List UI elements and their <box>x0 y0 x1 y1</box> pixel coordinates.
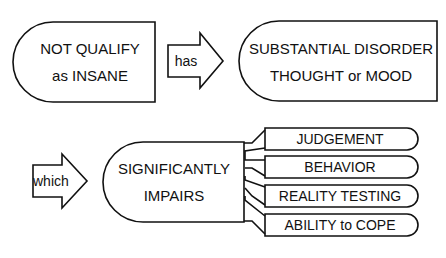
box-impairs-shape <box>103 142 244 222</box>
item-ability-to-cope-label: ABILITY to COPE <box>265 216 415 234</box>
arrow-has-label: has <box>168 52 204 70</box>
box-not-qualify-line1: NOT QUALIFY <box>28 40 152 58</box>
box-impairs-line2: IMPAIRS <box>106 187 242 205</box>
item-judgement-label: JUDGEMENT <box>265 130 415 148</box>
box-disorder-line2: THOUGHT or MOOD <box>244 67 438 85</box>
arrow-which-label: which <box>33 172 65 190</box>
item-behavior-label: BEHAVIOR <box>265 158 415 176</box>
box-not-qualify-line2: as INSANE <box>28 67 152 85</box>
box-not-qualify-shape <box>13 22 155 102</box>
item-reality-testing-label: REALITY TESTING <box>265 187 415 205</box>
box-disorder-shape <box>239 21 437 101</box>
connector-fan <box>244 130 265 234</box>
box-impairs-line1: SIGNIFICANTLY <box>106 160 242 178</box>
box-disorder-line1: SUBSTANTIAL DISORDER <box>244 40 438 58</box>
